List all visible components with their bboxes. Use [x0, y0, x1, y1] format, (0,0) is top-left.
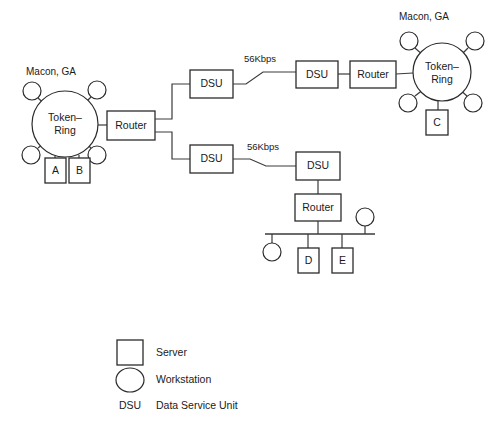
workstation-right-top-left[interactable] — [400, 32, 418, 50]
server-c-label: C — [433, 116, 441, 128]
workstation-right-bottom-left[interactable] — [399, 94, 417, 112]
workstation-right-bottom-right[interactable] — [464, 94, 482, 112]
legend-workstation-label: Workstation — [156, 373, 211, 385]
workstation-right-top-right[interactable] — [466, 32, 484, 50]
link-wan-top — [233, 72, 296, 84]
dsu-top-left-label: DSU — [200, 77, 222, 89]
network-diagram: Token– Ring Macon, GA A B Router DSU 56K… — [0, 0, 502, 429]
link-routerleft-dsubotleft — [155, 132, 190, 159]
network-diagram-canvas: Token– Ring Macon, GA A B Router DSU 56K… — [0, 0, 502, 429]
workstation-bus-right[interactable] — [356, 208, 374, 226]
speed-label-top: 56Kbps — [244, 53, 276, 64]
link-routerleft-dsutopleft — [155, 84, 190, 119]
site-label-left: Macon, GA — [26, 66, 76, 77]
router-left-label: Router — [115, 119, 147, 131]
dsu-bottom-left-label: DSU — [200, 152, 222, 164]
legend-server-label: Server — [156, 346, 187, 358]
server-d-label: D — [305, 254, 313, 266]
workstation-left-top-right[interactable] — [88, 81, 106, 99]
router-top-right-label: Router — [357, 68, 389, 80]
legend-dsu-abbr: DSU — [119, 399, 141, 411]
legend-dsu-label: Data Service Unit — [156, 399, 238, 411]
server-e-label: E — [339, 254, 346, 266]
legend: Server Workstation DSU Data Service Unit — [116, 340, 238, 411]
workstation-bus-left[interactable] — [263, 243, 281, 261]
dsu-top-right-label: DSU — [306, 68, 328, 80]
workstation-left-top-left[interactable] — [23, 82, 41, 100]
token-ring-right-label-line2: Ring — [431, 73, 453, 85]
dsu-bottom-right-label: DSU — [307, 159, 329, 171]
workstation-left-bottom-left[interactable] — [22, 146, 40, 164]
server-a-label: A — [52, 164, 59, 176]
router-bottom-label: Router — [302, 201, 334, 213]
link-wan-bottom — [233, 159, 296, 166]
server-b-label: B — [76, 164, 83, 176]
site-label-right: Macon, GA — [399, 11, 449, 22]
legend-workstation-icon — [116, 368, 144, 392]
legend-server-icon — [117, 340, 143, 365]
workstation-left-bottom-right[interactable] — [88, 146, 106, 164]
token-ring-left-label-line2: Ring — [54, 124, 76, 136]
link-routertopright-ringright — [396, 73, 413, 74]
token-ring-left-label-line1: Token– — [48, 111, 82, 123]
token-ring-right-label-line1: Token– — [425, 60, 459, 72]
speed-label-bottom: 56Kbps — [247, 141, 279, 152]
